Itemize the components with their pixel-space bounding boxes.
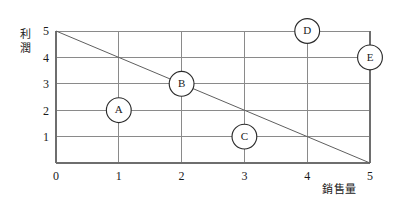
y-tick-2: 2 <box>43 104 49 118</box>
y-axis-title-char-2: 潤 <box>17 42 35 56</box>
data-point-e[interactable]: E <box>358 45 383 70</box>
x-tick-2: 2 <box>179 169 185 183</box>
y-tick-3: 3 <box>43 77 49 91</box>
data-point-b[interactable]: B <box>169 71 194 96</box>
marker-label-d: D <box>303 24 311 36</box>
x-tick-5: 5 <box>367 169 373 183</box>
marker-label-e: E <box>367 51 374 63</box>
chart-container: A B C D E 0 1 2 3 <box>0 0 397 215</box>
x-axis-tick-labels: 0 1 2 3 4 5 <box>53 169 373 183</box>
marker-label-a: A <box>115 103 123 115</box>
x-tick-1: 1 <box>116 169 122 183</box>
y-axis-title: 利 潤 <box>17 28 35 56</box>
marker-label-b: B <box>178 77 185 89</box>
y-axis-title-char-1: 利 <box>17 28 35 42</box>
y-tick-4: 4 <box>43 51 49 65</box>
x-tick-0: 0 <box>53 169 59 183</box>
y-tick-5: 5 <box>43 24 49 38</box>
x-tick-3: 3 <box>241 169 247 183</box>
data-point-a[interactable]: A <box>106 98 131 123</box>
marker-label-c: C <box>241 130 248 142</box>
data-point-d[interactable]: D <box>295 19 320 44</box>
x-tick-4: 4 <box>304 169 310 183</box>
y-axis-tick-labels: 1 2 3 4 5 <box>43 24 49 144</box>
x-axis-title: 銷售量 <box>322 183 357 197</box>
data-point-c[interactable]: C <box>232 124 257 149</box>
y-tick-1: 1 <box>43 130 49 144</box>
